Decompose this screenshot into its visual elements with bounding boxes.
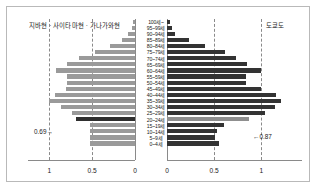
- bar-right: [167, 44, 205, 48]
- bar-left: [72, 111, 135, 115]
- bar-right: [167, 111, 265, 115]
- bar-left: [128, 32, 135, 36]
- bar-right: [167, 135, 215, 139]
- tick-right-1: 0.5: [210, 167, 219, 174]
- bar-right: [167, 117, 249, 121]
- bar-right: [167, 87, 261, 91]
- bar-left: [122, 38, 135, 42]
- bar-right: [167, 32, 175, 36]
- annotation-right: ←0.87: [253, 133, 272, 140]
- tick-left-0: 1: [48, 167, 52, 174]
- chart-frame: 지바현 · 사이타마현 · 가나가와현 도쿄도 100세~95~99세90~94…: [6, 6, 310, 182]
- x-axis-ticks: 10.5000.51: [22, 167, 308, 181]
- bar-right: [167, 74, 246, 78]
- bar-left: [133, 20, 135, 24]
- bar-right: [167, 99, 281, 103]
- bar-left: [132, 26, 135, 30]
- plot-area: 100세~95~99세90~94세85~89세80~84세75~79세70~74…: [22, 19, 308, 167]
- bar-left: [49, 99, 135, 103]
- tick-right-0: 0: [165, 167, 169, 174]
- bar-right: [167, 50, 225, 54]
- bar-left: [56, 68, 135, 72]
- bar-left: [67, 81, 135, 85]
- bar-right: [167, 141, 219, 145]
- tick-left-1: 0.5: [88, 167, 97, 174]
- bar-right: [167, 105, 275, 109]
- bar-left: [76, 117, 135, 121]
- bar-right: [167, 20, 170, 24]
- bar-left: [90, 123, 135, 127]
- bar-left: [90, 135, 135, 139]
- tick-left-2: 0: [133, 167, 137, 174]
- bar-left: [90, 129, 135, 133]
- population-pyramid-figure: 지바현 · 사이타마현 · 가나가와현 도쿄도 100세~95~99세90~94…: [0, 0, 316, 195]
- baseline-left: [28, 160, 135, 161]
- annotation-left: 0.69→: [34, 128, 53, 135]
- bar-right: [167, 93, 276, 97]
- bar-right: [167, 62, 247, 66]
- bar-left: [79, 56, 135, 60]
- tick-right-2: 1: [260, 167, 264, 174]
- bar-left: [110, 44, 135, 48]
- bar-right: [167, 38, 189, 42]
- bar-right: [167, 56, 236, 60]
- bar-right: [167, 81, 246, 85]
- bar-left: [66, 87, 135, 91]
- baseline-right: [167, 160, 302, 161]
- bar-right: [167, 68, 261, 72]
- pyramid-row: 0~4세: [22, 141, 308, 147]
- bar-left: [95, 50, 135, 54]
- bar-left: [67, 74, 135, 78]
- bar-left: [61, 105, 135, 109]
- bar-left: [67, 62, 135, 66]
- bar-left: [90, 141, 135, 145]
- bar-right: [167, 123, 224, 127]
- bar-right: [167, 26, 172, 30]
- bar-left: [55, 93, 135, 97]
- bar-right: [167, 129, 217, 133]
